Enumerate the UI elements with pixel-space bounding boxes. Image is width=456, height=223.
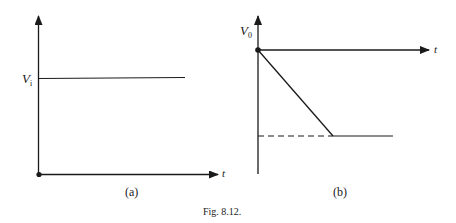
diagram-canvas: Vi t (a) V0 t (b) Fig. 8.12. [0,0,456,223]
panel-a: Vi t (a) [22,16,226,199]
panel-a-t-label: t [222,167,226,179]
panel-b: V0 t (b) [240,16,438,199]
panel-a-caption-label: (a) [125,185,138,199]
panel-b-ramp-line [258,50,333,136]
panel-a-vi-level-line [39,78,186,79]
panel-a-vi-label: Vi [22,71,33,88]
panel-a-origin-dot [36,172,41,177]
panel-b-v0-label: V0 [240,23,252,40]
panel-b-caption-label: (b) [333,185,347,199]
figure-caption: Fig. 8.12. [203,206,241,217]
panel-b-t-label: t [434,43,438,55]
figure-8-12: Vi t (a) V0 t (b) Fig. 8.12. [0,0,456,223]
